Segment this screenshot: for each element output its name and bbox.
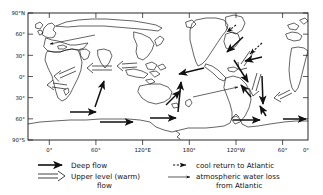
- x-tick-label: 180°: [183, 147, 196, 153]
- conveyor-belt-figure: 90°N 60° 30° 0° 30° 60° 90°S 0° 60° 120°…: [0, 0, 323, 195]
- y-axis-labels: 90°N 60° 30° 0° 30° 60° 90°S: [11, 10, 25, 143]
- x-tick-label: 0°: [303, 147, 309, 153]
- x-tick-label: 120°E: [134, 147, 151, 153]
- legend-label-atmospheric-water-loss: atmospheric water loss: [196, 172, 280, 181]
- x-tick-label: 120°W: [227, 147, 246, 153]
- y-tick-label: 90°S: [12, 137, 26, 143]
- legend-item-cool-return: cool return to Atlantic: [173, 161, 274, 170]
- y-tick-label: 60°: [15, 116, 25, 122]
- x-tick-label: 60°: [91, 147, 101, 153]
- legend-label-cool-return: cool return to Atlantic: [196, 161, 274, 170]
- x-axis-labels: 0° 60° 120°E 180° 120°W 60° 0°: [46, 147, 309, 153]
- x-tick-label: 60°: [278, 147, 288, 153]
- y-tick-label: 60°: [15, 31, 25, 37]
- y-tick-label: 30°: [15, 95, 25, 101]
- legend-item-upper-level-flow: Upper level (warm) flow: [38, 171, 140, 190]
- plot-frame: [28, 13, 308, 140]
- x-tick-label: 0°: [46, 147, 52, 153]
- legend-label-upper-level-flow-line2: flow: [97, 181, 112, 190]
- hollow-arrow-icon: [38, 171, 65, 181]
- y-tick-label: 90°N: [11, 10, 25, 16]
- legend: Deep flow Upper level (warm) flow cool r…: [38, 161, 280, 190]
- legend-label-upper-level-flow: Upper level (warm): [71, 172, 140, 181]
- deep-flow-arrow: [262, 76, 263, 104]
- legend-item-atmospheric-water-loss: atmospheric water loss from Atlantic: [168, 172, 280, 190]
- y-tick-label: 0°: [19, 74, 25, 80]
- legend-label-atmospheric-water-loss-line2: from Atlantic: [216, 181, 262, 190]
- y-tick-label: 30°: [15, 53, 25, 59]
- legend-item-deep-flow: Deep flow: [38, 161, 107, 170]
- legend-label-deep-flow: Deep flow: [71, 161, 107, 170]
